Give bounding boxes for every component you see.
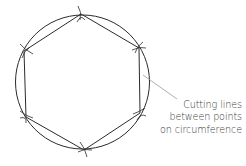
annotation-line-1: Cutting lines (132, 99, 242, 111)
circumscribed-circle (16, 15, 150, 149)
arc-tick-marks (20, 6, 146, 157)
inscribed-hexagon (24, 14, 140, 150)
construction-diagram (0, 0, 246, 166)
annotation-line-3: on circumference (132, 124, 242, 136)
annotation-line-2: between points (132, 111, 242, 123)
annotation-label: Cutting lines between points on circumfe… (132, 99, 242, 136)
